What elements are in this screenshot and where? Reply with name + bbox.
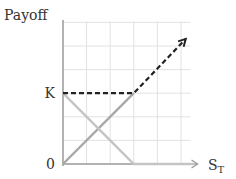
series-short-put: [63, 93, 195, 164]
series-combined-payoff: [63, 39, 186, 93]
y-tick-label: K: [45, 85, 56, 101]
y-tick-labels: 0K: [45, 85, 56, 172]
x-axis-label: ST: [208, 157, 225, 175]
x-axis-label-subscript: T: [218, 164, 225, 175]
y-axis-label: Payoff: [4, 7, 48, 23]
series-group: [63, 39, 195, 164]
y-tick-label: 0: [46, 156, 55, 172]
payoff-chart: Payoff ST 0K: [0, 0, 236, 179]
